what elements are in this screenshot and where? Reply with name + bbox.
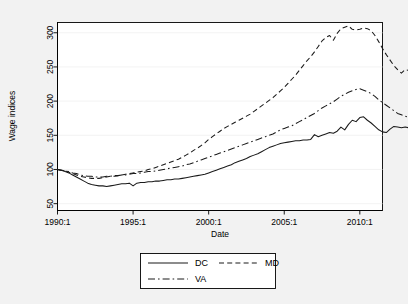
chart-legend: DC MD VA (141, 254, 280, 289)
y-axis-title: Wage indices (7, 91, 17, 142)
legend-label-va: VA (195, 274, 206, 284)
x-tick-label-2000: 2000:1 (196, 217, 222, 227)
y-tick-label-250: 250 (45, 60, 55, 74)
y-tick-label-150: 150 (45, 128, 55, 142)
legend-label-dc: DC (195, 258, 208, 268)
x-axis-title: Date (211, 229, 229, 239)
legend-label-md: MD (265, 258, 279, 268)
x-tick-label-1990: 1990:1 (45, 217, 71, 227)
x-tick-label-2005: 2005:1 (271, 217, 297, 227)
x-tick-label-1995: 1995:1 (120, 217, 146, 227)
x-tick-label-2010: 2010:1 (347, 217, 373, 227)
y-tick-label-50: 50 (45, 199, 55, 209)
plot-area-frame (58, 23, 383, 211)
wage-indices-line-chart: 50100150200250300 1990:11995:12000:12005… (0, 0, 408, 304)
y-tick-label-200: 200 (45, 94, 55, 108)
legend-border (141, 254, 276, 289)
y-tick-label-300: 300 (45, 25, 55, 39)
chart-figure: 50100150200250300 1990:11995:12000:12005… (0, 0, 408, 304)
y-tick-label-100: 100 (45, 162, 55, 176)
